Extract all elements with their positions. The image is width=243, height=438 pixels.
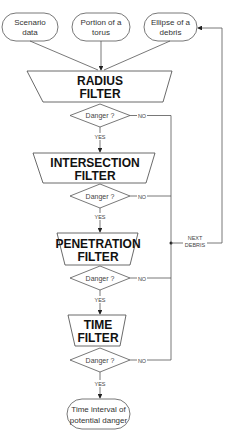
- intersection-filter: INTERSECTION FILTER: [33, 153, 155, 183]
- svg-text:Danger ?: Danger ?: [86, 357, 115, 365]
- decision-penetration: Danger ?: [70, 266, 130, 290]
- svg-text:debris: debris: [160, 28, 182, 37]
- svg-text:YES: YES: [94, 297, 105, 303]
- svg-text:YES: YES: [94, 381, 105, 387]
- svg-text:INTERSECTION: INTERSECTION: [50, 156, 139, 170]
- flowchart: Scenario data Portion of a torus Ellipse…: [0, 0, 243, 438]
- svg-text:TIME: TIME: [84, 318, 113, 332]
- svg-text:Time interval of: Time interval of: [71, 405, 126, 414]
- svg-text:Ellipse of a: Ellipse of a: [151, 18, 191, 27]
- svg-text:FILTER: FILTER: [74, 169, 115, 183]
- svg-text:PENETRATION: PENETRATION: [55, 237, 140, 251]
- penetration-filter: PENETRATION FILTER: [55, 233, 140, 265]
- svg-text:Danger ?: Danger ?: [86, 275, 115, 283]
- svg-text:FILTER: FILTER: [79, 87, 120, 101]
- svg-text:Danger ?: Danger ?: [86, 112, 115, 120]
- svg-text:torus: torus: [92, 28, 110, 37]
- decision-intersection: Danger ?: [70, 184, 130, 208]
- svg-text:Danger ?: Danger ?: [86, 193, 115, 201]
- svg-text:RADIUS: RADIUS: [77, 74, 123, 88]
- svg-text:FILTER: FILTER: [77, 331, 118, 345]
- input-ellipse-of-debris: Ellipse of a debris: [144, 13, 197, 41]
- decision-radius: Danger ?: [70, 104, 130, 127]
- svg-text:FILTER: FILTER: [77, 250, 118, 264]
- output-time-interval: Time interval of potential danger: [67, 399, 130, 429]
- svg-text:DEBRIS: DEBRIS: [185, 242, 206, 248]
- radius-filter: RADIUS FILTER: [27, 71, 172, 102]
- connector: [104, 41, 170, 70]
- connector: [30, 41, 98, 70]
- time-filter: TIME FILTER: [68, 315, 126, 346]
- svg-text:NEXT: NEXT: [188, 235, 203, 241]
- svg-text:NO: NO: [138, 113, 147, 119]
- svg-text:NO: NO: [138, 358, 147, 364]
- svg-text:Portion of a: Portion of a: [81, 18, 122, 27]
- svg-text:data: data: [22, 28, 38, 37]
- svg-text:Scenario: Scenario: [14, 18, 46, 27]
- decision-time: Danger ?: [70, 348, 130, 372]
- svg-text:NO: NO: [138, 194, 147, 200]
- svg-text:NO: NO: [138, 276, 147, 282]
- svg-text:YES: YES: [94, 134, 105, 140]
- input-portion-of-torus: Portion of a torus: [72, 13, 130, 41]
- svg-text:potential danger: potential danger: [70, 416, 128, 425]
- svg-text:YES: YES: [94, 214, 105, 220]
- input-scenario-data: Scenario data: [2, 13, 58, 41]
